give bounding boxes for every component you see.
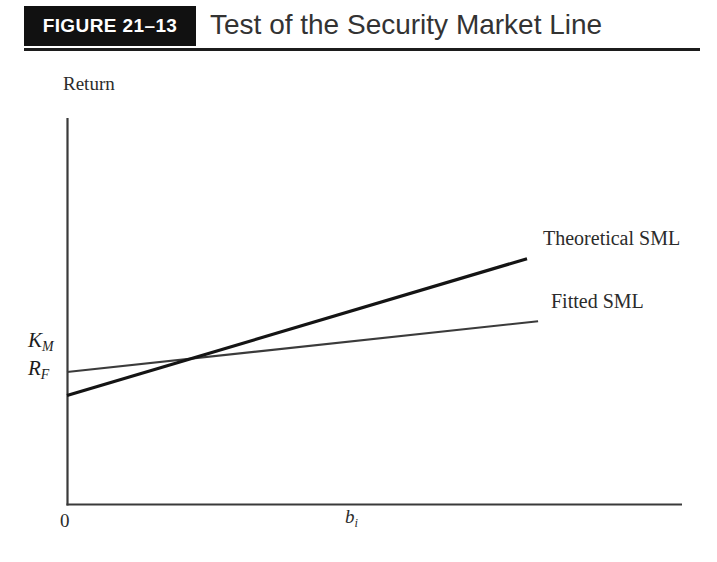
fitted-sml-line — [67, 321, 538, 372]
km-symbol: K — [28, 328, 42, 352]
rf-symbol: R — [28, 356, 41, 380]
x-variable-subscript: i — [355, 516, 358, 530]
x-axis-label: bi — [345, 506, 358, 531]
page-title: Test of the Security Market Line — [210, 3, 602, 47]
y-tick-label-rf: RF — [28, 356, 49, 383]
figure-header: FIGURE 21–13 Test of the Security Market… — [0, 0, 717, 54]
y-axis-label: Return — [63, 73, 115, 95]
km-subscript: M — [42, 339, 54, 354]
chart-plot-area: Return KM RF 0 bi Theoretical SML Fitted… — [0, 54, 717, 562]
header-divider — [24, 48, 700, 51]
figure-number-text: FIGURE 21–13 — [24, 6, 196, 46]
figure-number-badge: FIGURE 21–13 — [24, 6, 196, 46]
y-tick-label-km: KM — [28, 328, 54, 355]
x-variable-symbol: b — [345, 506, 355, 527]
fitted-sml-label: Fitted SML — [551, 290, 644, 313]
theoretical-sml-label: Theoretical SML — [543, 227, 680, 250]
x-axis-origin-label: 0 — [60, 510, 70, 532]
figure-container: FIGURE 21–13 Test of the Security Market… — [0, 0, 717, 562]
rf-subscript: F — [41, 367, 49, 382]
theoretical-sml-line — [67, 259, 527, 396]
